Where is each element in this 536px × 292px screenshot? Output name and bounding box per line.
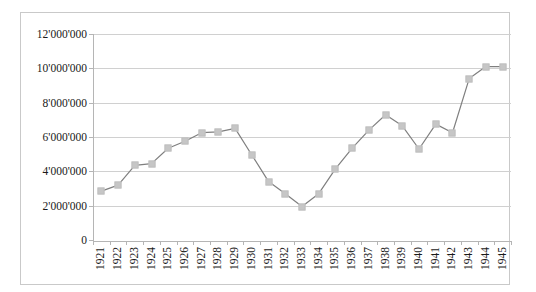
x-axis-tick: [277, 241, 278, 245]
data-point-marker: [499, 63, 506, 70]
data-point-marker: [432, 121, 439, 128]
x-axis-tick-label: 1944: [480, 247, 492, 270]
data-point-marker: [282, 190, 289, 197]
x-axis-tick-label: 1945: [497, 247, 509, 270]
x-axis-tick: [361, 241, 362, 245]
x-axis-tick: [93, 241, 94, 245]
x-axis-tick-label: 1941: [430, 247, 442, 270]
x-axis-tick: [327, 241, 328, 245]
y-axis-tick-label: 4'000'000: [21, 165, 87, 177]
x-axis-tick: [193, 241, 194, 245]
y-axis-tick-label: 6'000'000: [21, 131, 87, 143]
data-point-marker: [332, 165, 339, 172]
x-axis-tick-label: 1940: [413, 247, 425, 270]
data-point-marker: [382, 111, 389, 118]
data-point-marker: [98, 188, 105, 195]
x-axis-tick-label: 1934: [313, 247, 325, 270]
x-axis-tick: [377, 241, 378, 245]
gridline: [93, 137, 511, 138]
y-axis-tick-label: 12'000'000: [21, 28, 87, 40]
x-axis-tick-label: 1925: [162, 247, 174, 270]
data-point-marker: [215, 128, 222, 135]
x-axis-tick-label: 1929: [229, 247, 241, 270]
x-axis-tick-label: 1922: [112, 247, 124, 270]
series-line: [21, 13, 511, 286]
x-axis-tick-label: 1935: [329, 247, 341, 270]
x-axis-tick-label: 1933: [296, 247, 308, 270]
category-axis-line: [93, 241, 511, 242]
x-axis-tick: [310, 241, 311, 245]
x-axis-tick: [177, 241, 178, 245]
x-axis-tick-label: 1939: [396, 247, 408, 270]
data-point-marker: [365, 127, 372, 134]
x-axis-tick-label: 1928: [212, 247, 224, 270]
x-axis-tick-label: 1943: [463, 247, 475, 270]
x-axis-tick: [210, 241, 211, 245]
x-axis-tick: [344, 241, 345, 245]
data-point-marker: [466, 75, 473, 82]
y-axis-tick-label: 2'000'000: [21, 200, 87, 212]
x-axis-tick: [126, 241, 127, 245]
x-axis-tick: [461, 241, 462, 245]
y-axis-tick-label: 10'000'000: [21, 62, 87, 74]
x-axis-tick: [243, 241, 244, 245]
x-axis-tick-label: 1921: [95, 247, 107, 270]
x-axis-tick: [227, 241, 228, 245]
x-axis-tick: [427, 241, 428, 245]
x-axis-tick: [143, 241, 144, 245]
x-axis-tick-label: 1936: [346, 247, 358, 270]
data-point-marker: [131, 162, 138, 169]
gridline: [93, 68, 511, 69]
data-point-marker: [416, 146, 423, 153]
data-point-marker: [482, 63, 489, 70]
data-point-marker: [265, 178, 272, 185]
x-axis-tick: [478, 241, 479, 245]
x-axis-tick: [294, 241, 295, 245]
data-point-marker: [399, 122, 406, 129]
data-point-marker: [315, 190, 322, 197]
y-axis-tick-label: 8'000'000: [21, 97, 87, 109]
value-axis-line: [93, 34, 94, 241]
x-axis-tick-label: 1932: [279, 247, 291, 270]
gridline: [93, 171, 511, 172]
data-point-marker: [115, 182, 122, 189]
data-point-marker: [181, 138, 188, 145]
x-axis-tick: [444, 241, 445, 245]
data-point-marker: [299, 203, 306, 210]
x-axis-tick-label: 1938: [380, 247, 392, 270]
x-axis-tick-label: 1924: [146, 247, 158, 270]
x-axis-tick-label: 1927: [196, 247, 208, 270]
x-axis-tick-label: 1937: [363, 247, 375, 270]
gridline: [93, 103, 511, 104]
x-axis-tick: [394, 241, 395, 245]
x-axis-tick-label: 1926: [179, 247, 191, 270]
x-axis-tick-label: 1930: [246, 247, 258, 270]
data-point-marker: [148, 160, 155, 167]
x-axis-tick: [494, 241, 495, 245]
x-axis-tick-label: 1923: [129, 247, 141, 270]
x-axis-tick-label: 1942: [446, 247, 458, 270]
data-point-marker: [449, 129, 456, 136]
data-point-marker: [198, 129, 205, 136]
data-point-marker: [165, 145, 172, 152]
x-axis-tick: [260, 241, 261, 245]
data-point-marker: [232, 125, 239, 132]
data-point-marker: [248, 152, 255, 159]
x-axis-tick: [110, 241, 111, 245]
x-axis-tick: [160, 241, 161, 245]
x-axis-tick-label: 1931: [263, 247, 275, 270]
gridline: [93, 34, 511, 35]
y-axis-tick-label: 0: [21, 234, 87, 246]
x-axis-tick: [411, 241, 412, 245]
x-axis-tick: [511, 241, 512, 245]
data-point-marker: [349, 145, 356, 152]
chart-frame: 12'000'00010'000'0008'000'0006'000'0004'…: [20, 12, 510, 285]
